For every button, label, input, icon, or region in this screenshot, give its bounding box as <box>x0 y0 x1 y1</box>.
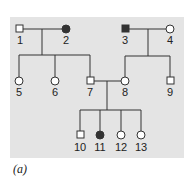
label-2: 2 <box>56 34 76 46</box>
label-7: 7 <box>80 86 100 98</box>
label-9: 9 <box>160 86 180 98</box>
individual-10-male <box>77 131 84 138</box>
figure-caption: (a) <box>13 162 27 177</box>
label-12: 12 <box>111 141 131 153</box>
label-6: 6 <box>45 86 65 98</box>
individual-4-female <box>166 25 174 33</box>
individual-5-female <box>15 77 23 85</box>
label-3: 3 <box>115 34 135 46</box>
individual-9-male <box>167 77 174 84</box>
individual-1-male <box>16 25 23 32</box>
individual-7-male <box>87 77 94 84</box>
individual-2-female-affected <box>62 25 70 33</box>
individual-3-male-affected <box>122 25 129 32</box>
label-10: 10 <box>70 141 90 153</box>
individual-6-female <box>51 77 59 85</box>
individual-12-female <box>117 131 125 139</box>
label-11: 11 <box>90 141 110 153</box>
label-1: 1 <box>10 34 30 46</box>
individual-11-female-affected <box>96 131 104 139</box>
label-8: 8 <box>115 86 135 98</box>
individual-8-female <box>121 77 129 85</box>
label-13: 13 <box>131 141 151 153</box>
individual-13-female <box>137 131 145 139</box>
label-5: 5 <box>9 86 29 98</box>
label-4: 4 <box>160 34 180 46</box>
